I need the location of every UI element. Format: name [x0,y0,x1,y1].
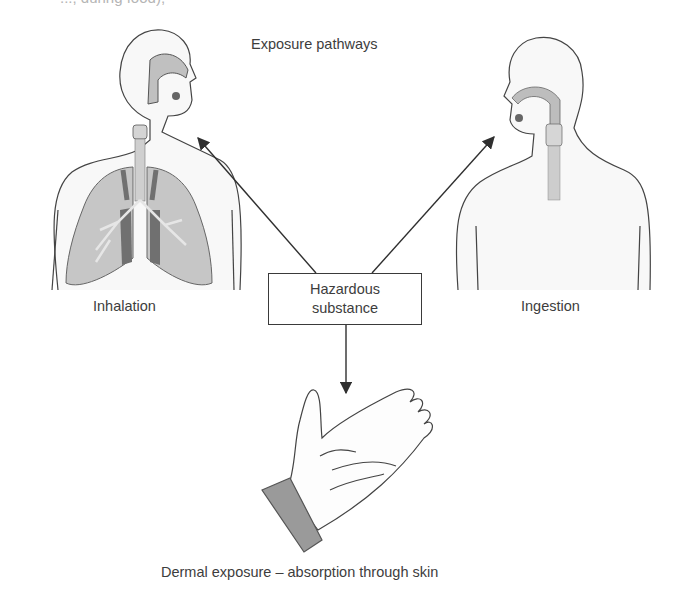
label-ingestion: Ingestion [521,298,580,314]
source-line-1: Hazardous [269,280,421,299]
hand-icon [262,389,432,552]
hazardous-substance-box: Hazardous substance [268,273,422,325]
label-inhalation: Inhalation [93,298,156,314]
label-dermal-exposure: Dermal exposure – absorption through ski… [161,564,438,580]
source-line-2: substance [269,299,421,318]
